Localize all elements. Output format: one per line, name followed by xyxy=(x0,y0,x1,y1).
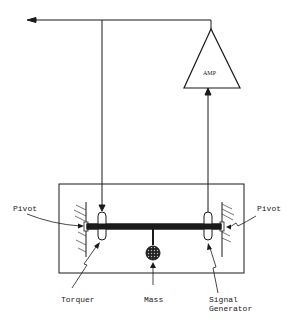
signal-arrow-icon xyxy=(205,88,211,95)
pendulous-accelerometer-diagram xyxy=(0,0,296,326)
output-arrow-icon xyxy=(27,18,36,23)
torquer-label: Torquer xyxy=(61,295,95,304)
pivot-right-leader xyxy=(230,216,256,227)
pivot-left-leader xyxy=(27,214,80,226)
mass-label: Mass xyxy=(144,295,163,304)
amplifier-label: AMP xyxy=(203,70,216,76)
signal-generator-leader xyxy=(210,248,218,293)
pivot-left-label: Pivot xyxy=(13,204,37,213)
signal-generator-label-line1: Signal xyxy=(209,295,238,304)
signal-generator-label-line2: Generator xyxy=(209,304,252,313)
torquer-leader xyxy=(72,247,96,288)
pivot-right-label: Pivot xyxy=(257,204,281,213)
mass-bob xyxy=(146,246,160,260)
amplifier-triangle xyxy=(184,29,240,88)
